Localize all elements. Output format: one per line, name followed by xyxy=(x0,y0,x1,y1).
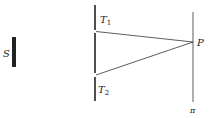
slit-1-label: T1 xyxy=(100,14,111,27)
source-bar xyxy=(12,37,16,67)
source-label: S xyxy=(3,48,10,59)
ray-2 xyxy=(96,42,193,75)
screen-label: π xyxy=(189,106,196,115)
ray-1 xyxy=(96,32,193,43)
slit-2-label: T2 xyxy=(98,84,109,97)
point-label: P xyxy=(196,37,204,48)
double-slit-diagram: S T1 T2 P π xyxy=(0,0,213,118)
